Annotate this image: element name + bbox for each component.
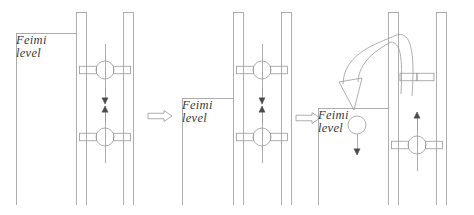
panel-2-spin-lower-bar-right [271,133,288,141]
panel-1-spin-lower-bar-right [114,133,131,141]
panel-1-spin-upper-bar-right [114,66,131,74]
panel-1-arrow-up-head [102,106,108,112]
fermi-level-label-panel-1: Feimi level [16,34,47,60]
fermi-level-label-panel-2: Feimi level [182,99,213,125]
panel-2-arrow-down-head [259,98,265,104]
panel-3-arrow-down-transferred-head [354,149,360,155]
panel-2-spin-lower-bar-left [237,133,254,141]
panel-1-spin-upper-bar-left [80,66,97,74]
panel-2-spin-upper-bar-right [271,66,288,74]
panel-1-spin-lower-bar-left [80,133,97,141]
panel-3-spin-lower-right-bar-right [426,141,443,149]
panel-2-spin-upper-bar-left [237,66,254,74]
diagram-svg [0,0,474,215]
panel-1-arrow-down-head [102,98,108,104]
panel-3-spin-upper-right-bars-bar-right [417,73,434,81]
transition-arrow-2 [296,113,320,124]
fermi-level-label-panel-3: Feimi level [318,109,349,135]
panel-3-spin-transferred-electron-circle [348,116,366,134]
panel-3-curved-arrow-head [339,78,362,110]
figure-canvas: Feimi level Feimi level Feimi level [0,0,474,215]
panel-3-spin-lower-right-bar-left [392,141,409,149]
panel-3-curved-arrow-outer-edge [343,34,413,96]
transition-arrow-1 [148,111,172,122]
panel-3-arrow-up-right-head [414,112,420,118]
panel-3-spin-upper-right-bars-bar-left [400,73,417,81]
panel-2-arrow-up-head [259,106,265,112]
